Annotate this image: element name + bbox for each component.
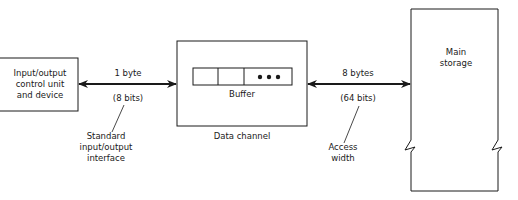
io-link-bits-label: (8 bits)	[106, 93, 150, 104]
io-unit-label: Input/output control unit and device	[2, 68, 78, 101]
buffer-label: Buffer	[217, 89, 267, 100]
buffer-dot	[276, 75, 280, 79]
io-interface-pointer	[112, 105, 124, 132]
buffer-dot	[267, 75, 271, 79]
io-interface-annotation: Standard input/output interface	[74, 131, 138, 164]
main-storage-box	[405, 9, 502, 191]
io-link-width-label: 1 byte	[108, 68, 148, 79]
main-storage-label: Main storage	[434, 47, 478, 69]
storage-link-width-label: 8 bytes	[336, 68, 380, 79]
access-width-pointer	[344, 106, 359, 143]
data-channel-caption: Data channel	[207, 131, 277, 142]
data-channel-box	[177, 41, 307, 126]
buffer-dot	[258, 75, 262, 79]
access-width-annotation: Access width	[323, 142, 363, 164]
storage-link-bits-label: (64 bits)	[334, 93, 382, 104]
